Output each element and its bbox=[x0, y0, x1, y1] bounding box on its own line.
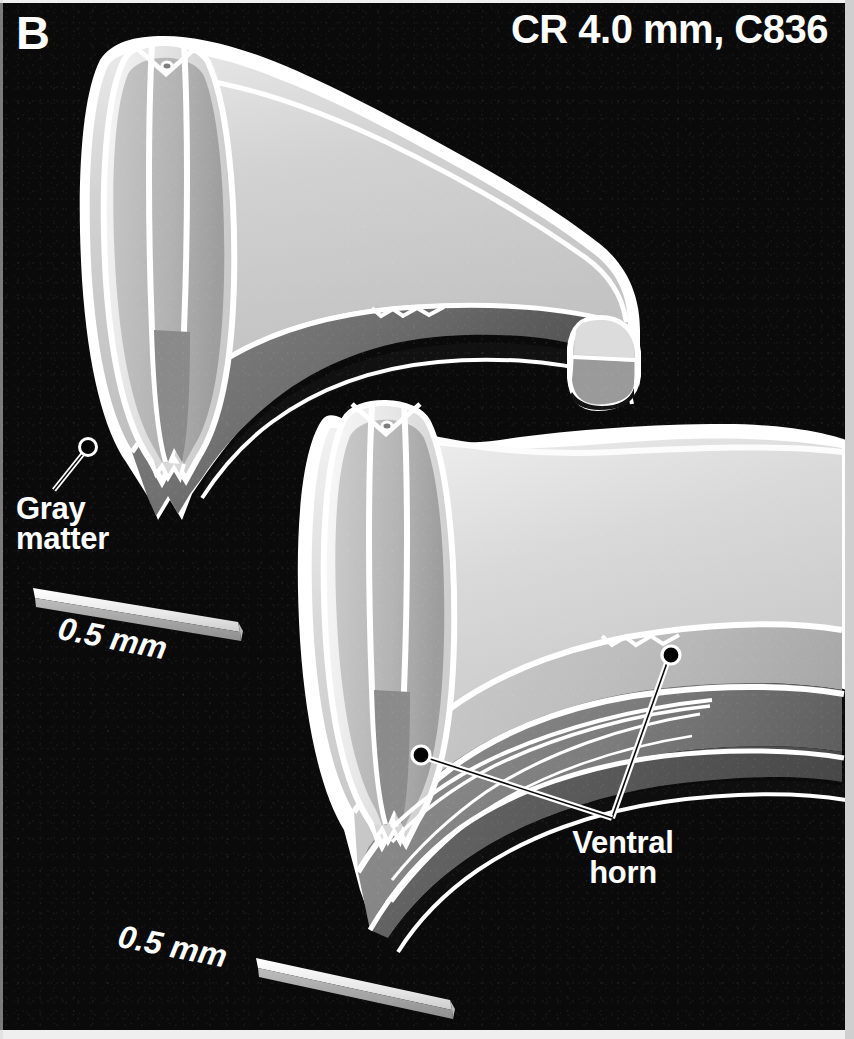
specimen-lower-render bbox=[0, 0, 854, 1039]
panel-label: B bbox=[16, 9, 49, 56]
scale-bar-lower-top bbox=[256, 958, 452, 1010]
annotation-gray-matter-line1: Gray bbox=[16, 494, 109, 524]
annotation-ventral-horn-line1: Ventral bbox=[543, 828, 703, 858]
annotation-gray-matter: Gray matter bbox=[16, 494, 109, 554]
annotation-ventral-horn-line2: horn bbox=[543, 858, 703, 888]
scale-bar-lower bbox=[256, 958, 455, 1019]
figure-panel: B CR 4.0 mm, C836 Gray matter Ventral ho… bbox=[0, 0, 854, 1039]
annotation-gray-matter-line2: matter bbox=[16, 524, 109, 554]
ventral-horn-leader-dot-left bbox=[412, 746, 430, 764]
lower-apex-dot bbox=[382, 422, 392, 430]
annotation-ventral-horn: Ventral horn bbox=[543, 828, 703, 888]
scale-bar-lower-side bbox=[258, 968, 453, 1019]
figure-title: CR 4.0 mm, C836 bbox=[511, 9, 828, 49]
ventral-horn-leader-dot-right bbox=[662, 646, 680, 664]
